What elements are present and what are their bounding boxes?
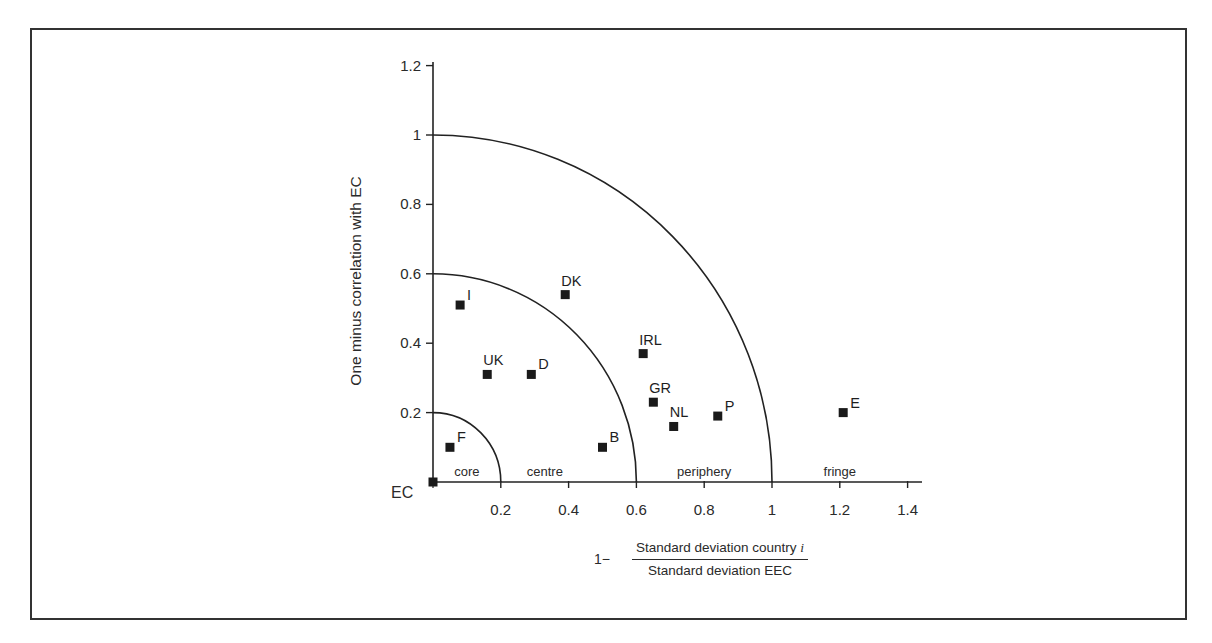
y-tick-label: 0.8 bbox=[400, 195, 421, 212]
region-label-fringe: fringe bbox=[824, 464, 857, 479]
square-marker-icon bbox=[483, 370, 492, 379]
boundary-arcs bbox=[433, 135, 772, 482]
y-tick-label: 1.2 bbox=[400, 57, 421, 74]
origin-label: EC bbox=[391, 484, 413, 502]
data-point-label: E bbox=[850, 395, 860, 411]
square-marker-icon bbox=[445, 443, 454, 452]
boundary-arc-1 bbox=[433, 135, 772, 482]
data-point: P bbox=[713, 398, 734, 421]
x-axis-title-numerator: Standard deviation country i bbox=[632, 540, 808, 560]
axis-ticks: 0.20.40.60.811.21.40.20.40.60.811.2 bbox=[400, 57, 918, 518]
data-point bbox=[429, 478, 438, 487]
data-point: F bbox=[445, 429, 466, 452]
axes bbox=[433, 62, 922, 485]
y-tick-label: 1 bbox=[413, 126, 421, 143]
square-marker-icon bbox=[649, 398, 658, 407]
y-axis-title: One minus correlation with EC bbox=[347, 176, 365, 385]
data-point-label: D bbox=[538, 356, 548, 372]
data-point-label: I bbox=[467, 287, 471, 303]
data-point-label: IRL bbox=[639, 332, 662, 348]
y-tick-label: 0.2 bbox=[400, 404, 421, 421]
x-axis-title-denominator: Standard deviation EEC bbox=[648, 560, 792, 578]
x-tick-label: 0.8 bbox=[694, 501, 715, 518]
square-marker-icon bbox=[527, 370, 536, 379]
data-point: NL bbox=[669, 404, 688, 431]
data-point: DK bbox=[561, 273, 582, 300]
square-marker-icon bbox=[669, 422, 678, 431]
data-point: B bbox=[598, 429, 619, 452]
data-point-label: NL bbox=[670, 404, 689, 420]
data-point-label: B bbox=[610, 429, 620, 445]
data-point: D bbox=[527, 356, 549, 379]
square-marker-icon bbox=[456, 301, 465, 310]
data-point: GR bbox=[649, 380, 671, 407]
data-point: IRL bbox=[639, 332, 662, 359]
region-labels: corecentreperipheryfringe bbox=[454, 464, 856, 479]
x-axis-title: 1− Standard deviation country i Standard… bbox=[594, 540, 808, 578]
data-point: I bbox=[456, 287, 472, 310]
x-tick-label: 0.2 bbox=[490, 501, 511, 518]
x-axis-title-fraction: Standard deviation country i Standard de… bbox=[632, 540, 808, 578]
y-tick-label: 0.6 bbox=[400, 265, 421, 282]
data-point-label: GR bbox=[649, 380, 671, 396]
region-label-core: core bbox=[454, 464, 479, 479]
data-point-label: F bbox=[457, 429, 466, 445]
square-marker-icon bbox=[429, 478, 438, 487]
x-tick-label: 1.4 bbox=[897, 501, 918, 518]
numerator-variable: i bbox=[800, 540, 804, 555]
y-tick-label: 0.4 bbox=[400, 334, 421, 351]
data-point: E bbox=[839, 395, 861, 418]
region-label-centre: centre bbox=[527, 464, 563, 479]
x-tick-label: 0.4 bbox=[558, 501, 579, 518]
x-tick-label: 0.6 bbox=[626, 501, 647, 518]
square-marker-icon bbox=[713, 412, 722, 421]
data-point-label: DK bbox=[561, 273, 581, 289]
square-marker-icon bbox=[839, 408, 848, 417]
data-point-label: UK bbox=[483, 352, 503, 368]
square-marker-icon bbox=[561, 290, 570, 299]
data-points: FIUKDDKBIRLGRNLPE bbox=[429, 273, 861, 487]
square-marker-icon bbox=[598, 443, 607, 452]
x-tick-label: 1.2 bbox=[829, 501, 850, 518]
data-point: UK bbox=[483, 352, 504, 379]
data-point-label: P bbox=[725, 398, 735, 414]
region-label-periphery: periphery bbox=[677, 464, 732, 479]
x-tick-label: 1 bbox=[768, 501, 776, 518]
x-axis-title-prefix: 1− bbox=[594, 551, 610, 567]
square-marker-icon bbox=[639, 349, 648, 358]
numerator-text: Standard deviation country bbox=[636, 540, 800, 555]
